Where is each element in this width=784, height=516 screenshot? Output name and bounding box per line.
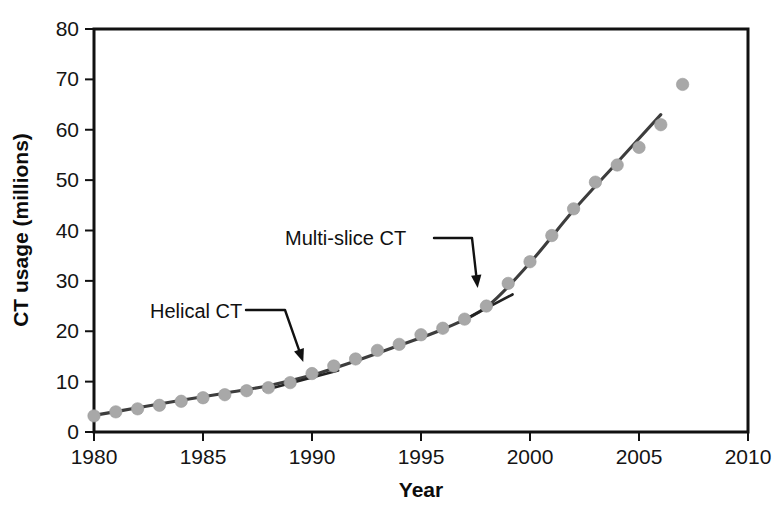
ct-usage-scatter-chart: 01020304050607080 1980198519901995200020… — [0, 0, 784, 516]
y-tick-label: 10 — [56, 370, 79, 393]
x-tick-label: 1980 — [71, 445, 118, 468]
data-point — [524, 256, 536, 268]
x-tick-label: 1995 — [398, 445, 445, 468]
annotation-multislice-ct-label: Multi-slice CT — [285, 227, 406, 249]
data-point — [328, 360, 340, 372]
data-point — [546, 229, 558, 241]
data-point — [131, 403, 143, 415]
data-point — [633, 141, 645, 153]
chart-figure: 01020304050607080 1980198519901995200020… — [0, 0, 784, 516]
y-tick-label: 80 — [56, 17, 79, 40]
y-tick-label: 50 — [56, 168, 79, 191]
y-tick-label: 40 — [56, 219, 79, 242]
x-tick-label: 2000 — [507, 445, 554, 468]
data-point — [393, 338, 405, 350]
data-point — [480, 300, 492, 312]
y-tick-label: 60 — [56, 118, 79, 141]
chart-background — [0, 0, 784, 516]
x-tick-label: 1985 — [180, 445, 227, 468]
x-tick-label: 1990 — [289, 445, 336, 468]
data-point — [437, 322, 449, 334]
data-point — [240, 384, 252, 396]
x-tick-label: 2010 — [725, 445, 772, 468]
data-point — [262, 381, 274, 393]
y-tick-label: 20 — [56, 319, 79, 342]
y-axis-title: CT usage (millions) — [9, 133, 32, 327]
y-tick-label: 70 — [56, 67, 79, 90]
y-tick-label: 0 — [67, 420, 79, 443]
data-point — [589, 176, 601, 188]
data-point — [153, 399, 165, 411]
data-point — [197, 392, 209, 404]
data-point — [219, 389, 231, 401]
y-tick-label: 30 — [56, 269, 79, 292]
data-point — [349, 353, 361, 365]
data-point — [110, 406, 122, 418]
data-point — [175, 395, 187, 407]
data-point — [284, 376, 296, 388]
data-point — [567, 203, 579, 215]
x-axis-title: Year — [399, 478, 443, 501]
data-point — [458, 313, 470, 325]
data-point — [502, 277, 514, 289]
x-tick-label: 2005 — [616, 445, 663, 468]
annotation-helical-ct-label: Helical CT — [150, 300, 242, 322]
data-point — [88, 410, 100, 422]
data-point — [655, 119, 667, 131]
data-point — [676, 78, 688, 90]
data-point — [415, 329, 427, 341]
data-point — [611, 159, 623, 171]
data-point — [371, 344, 383, 356]
data-point — [306, 367, 318, 379]
